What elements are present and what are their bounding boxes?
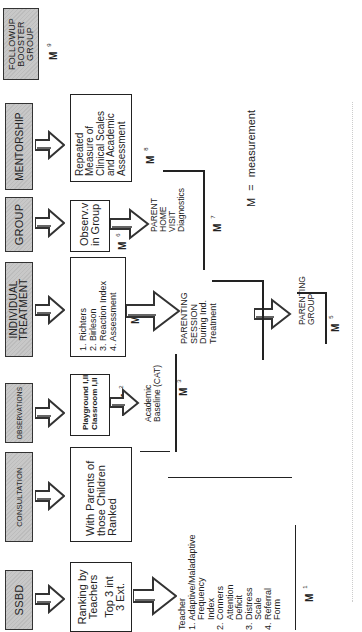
text-line: 3. Reaction Index: [98, 281, 108, 351]
measure-index: 5: [328, 315, 334, 318]
legend-meaning: measurement: [245, 110, 257, 177]
teacher-bracket-right: [168, 477, 292, 632]
legend-symbol: M: [245, 198, 257, 207]
box-observation-in-group: Observ.v in Group: [70, 200, 110, 252]
legend-equals: =: [245, 184, 257, 190]
arrow-down-icon: [35, 295, 65, 325]
header-consultation-label: CONSULTATION: [14, 467, 25, 527]
faint-caption-line: [352, 102, 353, 602]
arrow-down-icon: [35, 208, 65, 238]
text-line: Top 3 int: [104, 576, 115, 618]
parenting-session-line-h: [262, 280, 264, 360]
parenting-session-line-v: [212, 281, 263, 283]
header-individual-treatment-label-2: TREATMENT: [19, 278, 29, 340]
measure-m8: M8: [145, 147, 156, 164]
text-line: those Children: [96, 465, 107, 536]
header-group-label: GROUP: [14, 204, 25, 245]
text-line: 2. Birleson: [88, 308, 98, 351]
text-line: 1. Richters: [78, 308, 88, 351]
header-ssbd-label: SSBD: [14, 585, 25, 616]
academic-bracket: [140, 352, 170, 452]
parenting-group-label: PARENTING GROUP: [298, 276, 316, 325]
arrow-down-icon: [254, 298, 292, 330]
measure-symbol: M: [304, 594, 315, 602]
arrow-down-icon: [35, 584, 65, 614]
parenting-group-line-v: [297, 293, 326, 295]
measure-symbol: M: [117, 242, 128, 250]
header-observations-label: OBSERVATIONS: [14, 387, 25, 440]
measure-m7: M7: [212, 215, 223, 232]
academic-bracket-line: [175, 354, 177, 452]
text-line: Treatment: [209, 292, 219, 344]
header-mentorship: MENTORSHIP: [5, 103, 33, 190]
arrow-down-icon: [110, 388, 140, 416]
measure-m9: M9: [48, 43, 59, 60]
measure-index: 7: [210, 215, 216, 218]
arrow-down-icon: [126, 290, 180, 332]
text-line: Diagnostics: [177, 188, 186, 232]
arrow-down-icon: [35, 398, 65, 428]
arrow-down-icon: [35, 481, 65, 511]
box-repeated-measures: Repeated Measure of Clinical Scales and …: [70, 94, 132, 182]
box-playground-classroom: Playground I,II Classroom I,II: [70, 374, 110, 436]
box-ranking-by-teachers: Ranking by Teachers Top 3 int 3 Ext.: [70, 562, 132, 632]
parenting-session-label: PARENTING SESSION During Ind. Treatment: [180, 292, 218, 344]
measure-symbol: M: [212, 224, 223, 232]
measure-m5: M5: [330, 315, 341, 332]
arrow-down-icon: [35, 130, 65, 160]
header-group: GROUP: [5, 197, 33, 252]
box-parents-of-ranked-children: With Parents of those Children Ranked: [70, 447, 132, 542]
header-mentorship-label: MENTORSHIP: [14, 112, 25, 181]
header-individual-treatment: INDIVIDUAL TREATMENT: [5, 262, 33, 357]
measure-index: 3: [176, 379, 182, 382]
measure-index: 8: [143, 147, 149, 150]
header-ssbd: SSBD: [5, 570, 33, 630]
header-followup-label-3: GROUP: [26, 27, 35, 61]
spacer: [165, 451, 166, 452]
measure-index: 1: [302, 585, 308, 588]
text-line: With Parents of: [85, 461, 96, 536]
measure-symbol: M: [178, 388, 189, 396]
measure-symbol: M: [145, 156, 156, 164]
header-followup-booster-group: FOLLOWUP BOOSTER GROUP: [3, 8, 39, 80]
measure-m1: M1: [304, 585, 315, 602]
arrow-down-icon: [110, 208, 150, 240]
text-line: GROUP: [307, 276, 316, 325]
text-line: Ranking by: [77, 569, 88, 624]
text-line: 4. Assessment: [108, 292, 118, 351]
flow-diagram: SSBD CONSULTATION OBSERVATIONS INDIVIDUA…: [0, 0, 362, 632]
text-line: Classroom I,II: [90, 378, 99, 430]
text-line: Ranked: [107, 498, 118, 536]
text-line: Assessment: [117, 122, 128, 176]
box-individual-assessments: 1. Richters 2. Birleson 3. Reaction Inde…: [70, 257, 126, 357]
measure-index: 9: [46, 43, 52, 46]
parent-home-visit-line-h: [203, 170, 205, 270]
parent-home-visit-line-v: [163, 171, 204, 173]
parent-home-visit-label: PARENT HOME VISIT Diagnostics: [150, 188, 186, 232]
measure-m3: M3: [178, 379, 189, 396]
header-consultation: CONSULTATION: [5, 452, 33, 542]
legend: M = measurement: [245, 110, 257, 207]
text-line: Teachers: [88, 575, 99, 620]
text-line: Playground I,II: [81, 375, 90, 430]
parenting-group-line-h: [325, 292, 327, 344]
text-line: 3 Ext.: [115, 583, 126, 611]
measure-symbol: M: [330, 324, 341, 332]
measure-symbol: M: [48, 52, 59, 60]
text-line: in Group: [90, 204, 101, 246]
header-observations: OBSERVATIONS: [5, 383, 33, 443]
